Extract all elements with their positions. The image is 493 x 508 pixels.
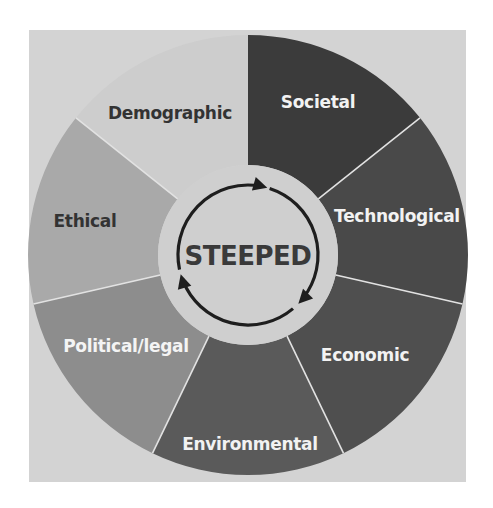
- segment-label-environmental: Environmental: [182, 434, 318, 454]
- center-label: STEEPED: [185, 241, 312, 271]
- segment-label-demographic: Demographic: [108, 103, 232, 123]
- segment-label-technological: Technological: [334, 206, 460, 226]
- segment-label-political-legal: Political/legal: [63, 336, 189, 356]
- steeped-diagram: STEEPED Societal Technological Economic …: [0, 0, 493, 508]
- segment-label-economic: Economic: [321, 345, 409, 365]
- segment-label-societal: Societal: [281, 92, 355, 112]
- segment-label-ethical: Ethical: [54, 211, 117, 231]
